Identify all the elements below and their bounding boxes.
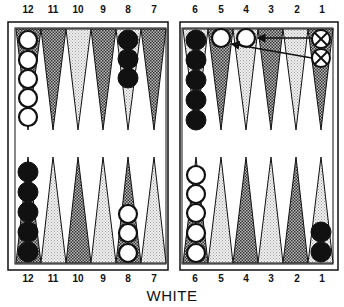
white-checkers-point-6-bottom xyxy=(187,166,205,262)
black-checkers-point-8-top xyxy=(118,30,138,88)
white-checkers-point-12-top xyxy=(19,31,37,126)
black-checkers-point-12-bottom xyxy=(18,162,38,262)
bottom-label-1: 1 xyxy=(312,273,332,284)
backgammon-board xyxy=(0,0,344,307)
bottom-label-11: 11 xyxy=(43,273,63,284)
bottom-label-2: 2 xyxy=(287,273,307,284)
bottom-label-12: 12 xyxy=(18,273,38,284)
black-checkers-point-6-top xyxy=(186,30,206,130)
bottom-label-3: 3 xyxy=(261,273,281,284)
bottom-label-5: 5 xyxy=(211,273,231,284)
white-checkers-point-8-bottom xyxy=(119,205,137,262)
bottom-label-6: 6 xyxy=(185,273,205,284)
white-checker-point-5 xyxy=(212,29,230,47)
bottom-label-7: 7 xyxy=(144,273,164,284)
white-checker-point-4 xyxy=(237,29,255,47)
bottom-label-8: 8 xyxy=(118,273,138,284)
player-label: WHITE xyxy=(0,287,344,304)
bottom-label-10: 10 xyxy=(68,273,88,284)
bottom-label-9: 9 xyxy=(93,273,113,284)
bottom-label-4: 4 xyxy=(236,273,256,284)
